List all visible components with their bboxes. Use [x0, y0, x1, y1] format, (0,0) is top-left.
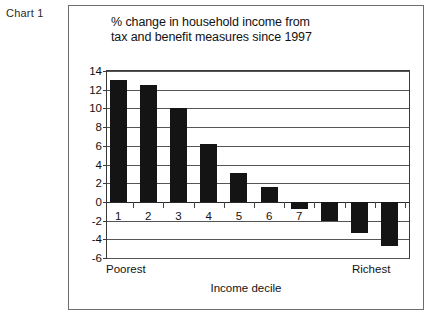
- y-axis-tick-mark: [103, 127, 107, 128]
- y-axis-tick-label: 2: [96, 177, 102, 189]
- x-axis-title: Income decile: [69, 282, 423, 294]
- x-axis-tick-mark: [133, 202, 134, 208]
- x-axis-category-label: 1: [115, 210, 121, 222]
- x-axis-category-label: 5: [236, 210, 242, 222]
- chart-title-line-2: tax and benefit measures since 1997: [111, 30, 411, 45]
- x-axis-tick-mark: [314, 202, 315, 208]
- y-axis-tick-mark: [103, 183, 107, 184]
- bar: [230, 173, 247, 202]
- gridline: [107, 258, 409, 259]
- x-axis-tick-mark: [375, 202, 376, 208]
- gridline: [107, 239, 409, 240]
- x-axis-tick-mark: [224, 202, 225, 208]
- x-axis-tick-mark: [194, 202, 195, 208]
- y-axis-tick-label: -6: [92, 252, 102, 264]
- x-axis-tick-mark: [254, 202, 255, 208]
- poorest-end-label: Poorest: [106, 263, 146, 275]
- x-axis-tick-mark: [405, 202, 406, 208]
- y-axis-tick-label: -2: [92, 215, 102, 227]
- gridline: [107, 71, 409, 72]
- plot-area: 14121086420-2-4-6 12345678910: [106, 70, 410, 259]
- y-axis-tick-label: -4: [92, 233, 102, 245]
- x-axis-category-label: 4: [205, 210, 211, 222]
- x-axis-tick-mark: [284, 202, 285, 208]
- chart-caption: Chart 1: [6, 7, 43, 19]
- bar: [381, 202, 398, 246]
- bar: [140, 85, 157, 202]
- y-axis-tick-mark: [103, 258, 107, 259]
- richest-end-label: Richest: [352, 263, 390, 275]
- y-axis-tick-label: 10: [89, 102, 102, 114]
- chart-title: % change in household income from tax an…: [111, 15, 411, 45]
- y-axis-tick-label: 0: [96, 196, 102, 208]
- y-axis-tick-mark: [103, 202, 107, 203]
- chart-frame: % change in household income from tax an…: [68, 5, 424, 310]
- y-axis-tick-label: 12: [89, 84, 102, 96]
- y-axis-tick-mark: [103, 71, 107, 72]
- bar: [170, 108, 187, 202]
- x-axis-category-label: 3: [175, 210, 181, 222]
- x-axis-category-label: 6: [266, 210, 272, 222]
- y-axis-tick-mark: [103, 146, 107, 147]
- x-axis-category-label: 7: [296, 210, 302, 222]
- y-axis-tick-mark: [103, 221, 107, 222]
- bar: [110, 80, 127, 202]
- bar: [200, 144, 217, 202]
- x-axis-category-label: 2: [145, 210, 151, 222]
- y-axis-tick-label: 14: [89, 65, 102, 77]
- x-axis-category-label: 9: [356, 210, 362, 222]
- y-axis-tick-label: 6: [96, 140, 102, 152]
- y-axis-tick-mark: [103, 165, 107, 166]
- chart-title-line-1: % change in household income from: [111, 15, 411, 30]
- x-axis-tick-mark: [163, 202, 164, 208]
- y-axis-tick-mark: [103, 108, 107, 109]
- x-axis-category-label: 8: [326, 210, 332, 222]
- y-axis-tick-mark: [103, 239, 107, 240]
- x-axis-tick-mark: [345, 202, 346, 208]
- y-axis-tick-mark: [103, 90, 107, 91]
- y-axis-tick-label: 8: [96, 121, 102, 133]
- x-axis-category-label: 10: [383, 210, 396, 222]
- bar: [291, 202, 308, 209]
- y-axis-tick-label: 4: [96, 159, 102, 171]
- bar: [261, 187, 278, 202]
